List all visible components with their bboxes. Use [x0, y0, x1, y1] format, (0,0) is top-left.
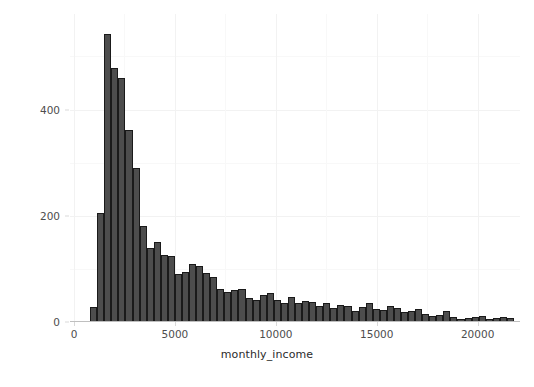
y-tick-mark	[65, 322, 69, 323]
x-tick-mark	[175, 322, 176, 326]
x-tick-label: 15000	[360, 328, 393, 340]
y-tick-mark	[65, 215, 69, 216]
x-axis-title-label: monthly_income	[221, 348, 313, 361]
x-tick-mark	[276, 322, 277, 326]
x-tick-label: 20000	[461, 328, 494, 340]
x-tick-mark	[377, 322, 378, 326]
x-tick-mark	[74, 322, 75, 326]
x-tick-label: 10000	[259, 328, 292, 340]
x-tick-label: 5000	[162, 328, 189, 340]
y-tick-mark	[65, 109, 69, 110]
x-tick-label: 0	[71, 328, 78, 340]
histogram-chart: count 0200400 05000100001500020000 month…	[0, 0, 534, 387]
x-axis-title: monthly_income	[0, 348, 534, 361]
x-tick-mark	[478, 322, 479, 326]
x-axis-tick-labels: 05000100001500020000	[0, 0, 534, 387]
